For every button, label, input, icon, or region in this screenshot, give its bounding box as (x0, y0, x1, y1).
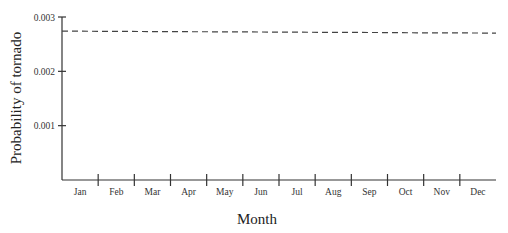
x-tick-label-feb: Feb (109, 187, 124, 197)
x-tick-label-jun: Jun (254, 187, 267, 197)
plot-area: 0.0010.0020.003 JanFebMarAprMayJunJulAug… (34, 13, 496, 198)
x-tick-label-apr: Apr (181, 187, 197, 197)
x-tick-label-aug: Aug (325, 187, 342, 197)
y-tick-label: 0.003 (34, 13, 56, 23)
x-tick-label-sep: Sep (362, 187, 377, 197)
x-axis-title: Month (237, 211, 278, 227)
x-tick-label-dec: Dec (470, 187, 485, 197)
x-tick-label-jul: Jul (292, 187, 303, 197)
y-tick-label: 0.002 (34, 67, 56, 77)
x-tick-label-oct: Oct (399, 187, 413, 197)
y-tick-label: 0.001 (34, 121, 56, 131)
y-axis-ticks: 0.0010.0020.003 (34, 13, 66, 132)
chart-canvas: 0.0010.0020.003 JanFebMarAprMayJunJulAug… (0, 0, 508, 233)
x-tick-label-mar: Mar (145, 187, 162, 197)
x-axis-tick-labels: JanFebMarAprMayJunJulAugSepOctNovDec (74, 187, 486, 197)
x-tick-label-nov: Nov (434, 187, 451, 197)
y-axis-title: Probability of tornado (8, 32, 24, 164)
probability-dashed-line (62, 31, 496, 33)
x-tick-label-may: May (216, 187, 234, 197)
x-tick-label-jan: Jan (74, 187, 87, 197)
